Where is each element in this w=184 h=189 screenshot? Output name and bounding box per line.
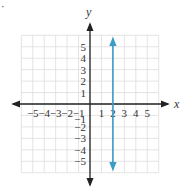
y-tick-label: −4 [74,144,86,156]
coordinate-plane: · x y −5−4−3−2−112345 54321−1−2−3−4−5 [0,0,184,189]
x-tick-labels: −5−4−3−2−112345 [27,107,151,119]
x-tick-label: 5 [145,107,151,119]
x-tick-label: 1 [99,107,105,119]
y-tick-label: 5 [81,41,87,53]
x-tick-label: 4 [133,107,139,119]
x-tick-label: −4 [38,107,50,119]
y-tick-label: −2 [74,121,86,133]
y-tick-label: 1 [81,87,87,99]
y-tick-label: 2 [81,75,87,87]
problem-marker: · [1,0,5,12]
x-axis-label: x [173,97,180,111]
y-tick-label: 3 [81,64,87,76]
y-tick-label: −5 [74,155,86,167]
y-tick-label: −3 [74,132,86,144]
x-tick-label: 3 [122,107,128,119]
y-axis-label: y [85,5,92,19]
x-tick-label: −2 [61,107,73,119]
x-tick-label: −3 [50,107,62,119]
x-tick-label: −5 [27,107,39,119]
y-tick-label: 4 [81,52,87,64]
